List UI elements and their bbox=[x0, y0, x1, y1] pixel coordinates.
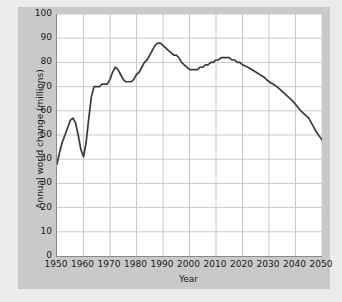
y-tick-label: 50 bbox=[20, 130, 52, 139]
data-line-series bbox=[57, 14, 322, 256]
series-line-annual-world-change bbox=[57, 43, 322, 164]
y-tick-label: 20 bbox=[20, 203, 52, 212]
y-tick-label: 100 bbox=[20, 9, 52, 18]
y-tick-label: 80 bbox=[20, 57, 52, 66]
x-tick-label: 2050 bbox=[301, 259, 341, 269]
y-tick-label: 40 bbox=[20, 154, 52, 163]
plot-area bbox=[56, 14, 322, 257]
y-tick-label: 70 bbox=[20, 82, 52, 91]
y-tick-label: 30 bbox=[20, 178, 52, 187]
y-tick-label: 90 bbox=[20, 33, 52, 42]
y-axis-tick-labels: 0102030405060708090100 bbox=[18, 14, 52, 256]
y-tick-label: 60 bbox=[20, 106, 52, 115]
chart-figure: Annual world change (millions) 010203040… bbox=[0, 0, 342, 302]
x-axis-tick-labels: 1950196019701980199020002010202020302040… bbox=[56, 259, 321, 273]
y-tick-label: 10 bbox=[20, 227, 52, 236]
x-axis-title: Year bbox=[56, 274, 321, 284]
